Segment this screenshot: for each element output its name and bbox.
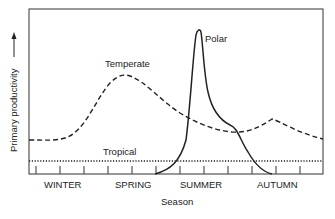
plot-frame xyxy=(29,9,323,174)
season-autumn: AUTUMN xyxy=(257,179,298,190)
label-tropical: Tropical xyxy=(103,146,136,157)
y-axis-arrow-icon xyxy=(12,32,17,57)
label-polar: Polar xyxy=(205,33,227,44)
x-axis-label: Season xyxy=(161,196,193,207)
seasonal-productivity-chart: Temperate Polar Tropical WINTER SPRING S… xyxy=(0,0,335,219)
label-temperate: Temperate xyxy=(105,58,150,69)
season-winter: WINTER xyxy=(44,179,82,190)
season-spring: SPRING xyxy=(115,179,151,190)
series-temperate xyxy=(29,75,323,140)
y-axis-label: Primary productivity xyxy=(8,68,19,152)
series-polar xyxy=(155,30,272,174)
season-summer: SUMMER xyxy=(180,179,222,190)
